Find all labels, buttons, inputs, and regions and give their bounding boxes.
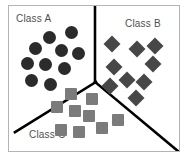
data-point-square xyxy=(69,105,81,117)
data-point-circle xyxy=(44,78,57,91)
data-point-square xyxy=(55,124,67,136)
data-point-diamond xyxy=(128,90,145,107)
data-point-square xyxy=(83,110,95,122)
data-point-circle xyxy=(29,42,42,55)
data-point-diamond xyxy=(119,72,136,89)
data-point-diamond xyxy=(145,56,162,73)
data-point-square xyxy=(73,126,85,138)
data-point-circle xyxy=(72,47,85,60)
data-point-circle xyxy=(55,44,68,57)
data-point-diamond xyxy=(147,38,164,55)
class-a-label: Class A xyxy=(16,14,51,24)
plot-frame: Class A Class B Class C xyxy=(8,5,180,152)
data-point-circle xyxy=(25,74,38,87)
data-point-circle xyxy=(65,26,78,39)
data-point-circle xyxy=(58,62,71,75)
data-point-square xyxy=(65,88,77,100)
data-point-diamond xyxy=(106,59,123,76)
data-point-circle xyxy=(43,31,56,44)
data-point-diamond xyxy=(102,78,119,95)
data-point-square xyxy=(86,93,98,105)
data-point-diamond xyxy=(136,74,153,91)
data-point-circle xyxy=(21,57,34,70)
data-point-square xyxy=(112,114,124,126)
class-b-label: Class B xyxy=(125,19,161,29)
data-point-circle xyxy=(39,58,52,71)
data-point-diamond xyxy=(104,36,121,53)
data-point-square xyxy=(51,101,63,113)
class-separation-diagram: Class A Class B Class C xyxy=(0,0,191,161)
data-point-square xyxy=(96,122,108,134)
data-point-diamond xyxy=(129,41,146,58)
